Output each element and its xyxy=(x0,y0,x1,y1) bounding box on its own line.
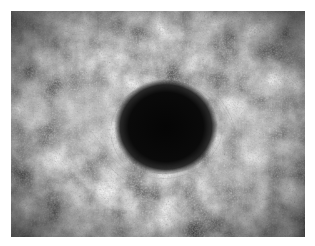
black-hole-illustration xyxy=(11,11,305,237)
black-hole-image xyxy=(11,11,305,237)
vignette xyxy=(11,11,305,237)
